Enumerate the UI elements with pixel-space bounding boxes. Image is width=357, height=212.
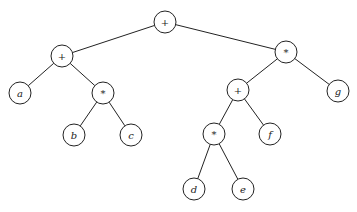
operator-node: +: [227, 79, 249, 101]
variable-node: g: [327, 80, 349, 102]
node-label: g: [335, 86, 341, 97]
variable-node: d: [183, 178, 205, 200]
operator-node: +: [51, 45, 73, 67]
variable-node: f: [259, 123, 281, 145]
tree-edge: [295, 59, 329, 85]
tree-edge: [247, 59, 278, 83]
node-label: +: [161, 17, 169, 28]
tree-edge: [176, 25, 276, 50]
variable-node: c: [120, 124, 142, 146]
tree-edge: [244, 99, 263, 125]
tree-edge: [219, 100, 232, 125]
operator-node: *: [203, 123, 225, 145]
expression-tree: ++*a*bc+g*fde: [0, 0, 357, 212]
tree-edge: [109, 102, 125, 126]
node-label: e: [240, 184, 246, 195]
node-label: *: [101, 88, 106, 99]
tree-nodes: ++*a*bc+g*fde: [9, 11, 349, 200]
variable-node: e: [232, 178, 254, 200]
tree-edge: [80, 102, 96, 126]
node-label: c: [128, 130, 134, 141]
node-label: *: [212, 129, 217, 140]
tree-edge: [70, 63, 95, 85]
node-label: a: [17, 88, 23, 99]
tree-edge: [219, 144, 238, 180]
operator-node: *: [275, 41, 297, 63]
variable-node: b: [63, 124, 85, 146]
variable-node: a: [9, 82, 31, 104]
node-label: d: [191, 184, 197, 195]
node-label: +: [234, 85, 242, 96]
tree-edge: [72, 25, 154, 52]
node-label: b: [71, 130, 77, 141]
tree-edge: [28, 63, 53, 85]
operator-node: *: [92, 82, 114, 104]
operator-node: +: [154, 11, 176, 33]
tree-edge: [198, 144, 210, 178]
node-label: +: [58, 51, 66, 62]
node-label: *: [284, 47, 289, 58]
